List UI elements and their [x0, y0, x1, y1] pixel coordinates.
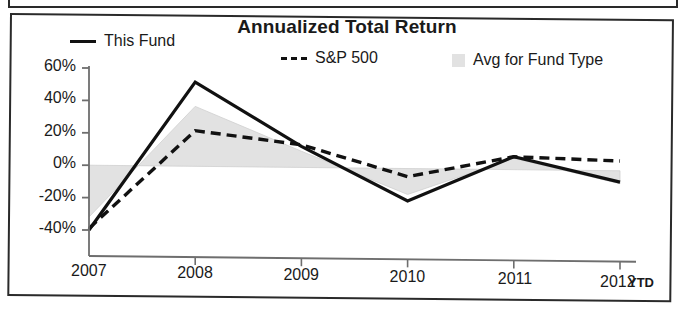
y-axis-tick-4: -20% — [14, 187, 76, 205]
x-axis-tick-2007: 2007 — [71, 262, 107, 280]
x-axis-tick-2009: 2009 — [283, 266, 319, 284]
y-axis-tick-0: 60% — [14, 57, 76, 75]
y-axis-tick-1: 40% — [14, 89, 76, 107]
x-axis-ytd-label: YTD — [628, 275, 654, 290]
x-axis-tick-2010: 2010 — [390, 268, 426, 286]
area-swatch-icon — [452, 54, 465, 67]
legend-item-avg-for-fund-type: Avg for Fund Type — [452, 52, 603, 68]
y-axis-tick-5: -40% — [14, 219, 76, 237]
y-axis-tick-2: 20% — [14, 122, 76, 140]
solid-line-swatch-icon — [70, 40, 96, 43]
legend-item-this-fund: This Fund — [70, 33, 175, 49]
legend-label-avg-for-fund-type: Avg for Fund Type — [473, 52, 603, 68]
legend-item-sp-500: S&P 500 — [281, 50, 378, 66]
dashed-line-swatch-icon — [281, 57, 307, 60]
x-axis-tick-2011: 2011 — [498, 270, 532, 288]
x-axis-tick-2008: 2008 — [177, 264, 213, 282]
legend-label-this-fund: This Fund — [104, 33, 175, 49]
chart-title: Annualized Total Return — [212, 16, 482, 38]
y-axis-tick-3: 0% — [14, 154, 76, 172]
adjacent-box-sliver — [8, 0, 678, 8]
legend-label-sp-500: S&P 500 — [315, 50, 378, 66]
scanned-page-region: Annualized Total Return This Fund S&P 50… — [0, 0, 688, 317]
